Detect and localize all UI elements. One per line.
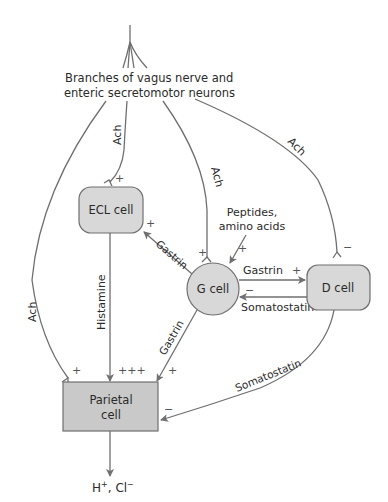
sign-parietal-ach: +: [72, 364, 81, 377]
label-ach-g: Ach: [208, 165, 226, 188]
sign-g-ach: +: [198, 246, 207, 259]
ecl-cell-label: ECL cell: [88, 203, 133, 217]
label-ach-ecl: Ach: [111, 125, 124, 145]
sign-ecl-gastrin: +: [146, 217, 155, 230]
source-label-line1: Branches of vagus nerve and: [65, 71, 233, 85]
sign-parietal-histamine: +++: [118, 364, 146, 377]
peptides-label-line1: Peptides,: [227, 206, 277, 219]
label-somatostatin-g: Somatostatin: [241, 301, 314, 314]
sign-d-gastrin: +: [292, 264, 301, 277]
sign-parietal-gastrin: +: [168, 364, 177, 377]
label-gastrin-d: Gastrin: [243, 264, 283, 277]
label-ach-d: Ach: [285, 135, 309, 159]
nerve-trunk-icon: [123, 25, 147, 68]
sign-ecl-ach: +: [115, 172, 124, 185]
parietal-cell-label-line2: cell: [101, 408, 121, 422]
edge-ach-g: [163, 101, 207, 257]
label-ach-parietal: Ach: [26, 302, 39, 322]
acid-output-label: H+, Cl−: [92, 480, 134, 495]
parietal-cell-label-line1: Parietal: [89, 393, 132, 407]
source-label-line2: enteric secretomotor neurons: [64, 86, 235, 100]
ecl-cell-node: ECL cell: [79, 187, 143, 233]
sign-parietal-somatostatin: −: [164, 403, 173, 416]
sign-g-somatostatin: −: [245, 284, 254, 297]
label-gastrin-ecl: Gastrin: [154, 237, 191, 271]
g-cell-node: G cell: [187, 263, 239, 315]
d-cell-label: D cell: [322, 281, 354, 295]
g-cell-label: G cell: [197, 282, 229, 296]
label-somatostatin-parietal: Somatostatin: [233, 356, 302, 393]
sign-g-peptides: +: [238, 242, 247, 255]
edge-somatostatin-parietal: [161, 310, 334, 420]
peptides-label-line2: amino acids: [219, 220, 286, 233]
d-cell-node: D cell: [307, 265, 370, 310]
edge-ach-parietal: [32, 101, 106, 378]
sign-d-ach: −: [343, 241, 352, 254]
gastric-acid-regulation-diagram: Branches of vagus nerve and enteric secr…: [0, 0, 388, 502]
label-histamine: Histamine: [95, 274, 108, 330]
parietal-cell-node: Parietal cell: [63, 382, 158, 431]
